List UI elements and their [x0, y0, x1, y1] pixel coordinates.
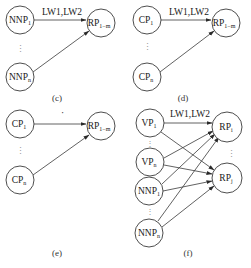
- edge-label: LW1,LW2: [170, 109, 210, 119]
- svg-text:RPi: RPi: [219, 122, 233, 133]
- edge-cpn-rp: [33, 135, 89, 175]
- ellipsis: ⋮: [146, 207, 154, 216]
- edge-nnp1-rpi: [162, 134, 215, 184]
- ellipsis: ⋮: [143, 42, 152, 52]
- node-rp-1-m: RP1−m: [212, 9, 240, 37]
- ellipsis: ⋮: [227, 149, 236, 159]
- edge-vpn-rpi: [164, 131, 213, 158]
- edge-cpn-rp: [160, 31, 214, 72]
- node-nnpn: NNPn: [6, 63, 34, 91]
- edge-label: ·: [61, 108, 64, 118]
- node-cp1: CP1: [6, 110, 34, 138]
- edge-vpn-rpj: [164, 165, 212, 174]
- panel-c: LW1,LW2 NNP1 ⋮ NNPn RP1−m (c): [6, 6, 115, 103]
- ellipsis: ⋮: [16, 44, 25, 54]
- svg-text:NNP1: NNP1: [138, 186, 160, 197]
- node-vpn: VPn: [136, 148, 164, 176]
- diagram-canvas: LW1,LW2 NNP1 ⋮ NNPn RP1−m (c) LW1,LW2 CP…: [0, 0, 251, 268]
- panel-f: LW1,LW2 VP1 ⋮ VPn NNP1 ⋮ NNPn RPi ⋮ RPj …: [135, 109, 242, 258]
- node-cpn: CPn: [6, 166, 34, 194]
- edge-nnpn-rpj: [162, 186, 214, 227]
- edge-nnp1-rpj: [163, 181, 212, 191]
- node-rpi: RPi: [212, 112, 242, 142]
- node-vp1: VP1: [136, 109, 164, 137]
- caption-c: (c): [52, 93, 62, 103]
- node-rp-1-m: RP1−m: [87, 112, 115, 140]
- ellipsis: ⋮: [16, 146, 25, 156]
- edge-label: LW1,LW2: [42, 7, 82, 17]
- svg-text:NNP1: NNP1: [9, 15, 31, 26]
- node-nnp1: NNP1: [6, 6, 34, 34]
- edge-vp1-rpj: [161, 132, 214, 170]
- node-cp1: CP1: [133, 6, 161, 34]
- ellipsis: ⋮: [146, 139, 154, 148]
- svg-text:RPj: RPj: [219, 173, 233, 184]
- svg-text:NNPn: NNPn: [9, 72, 31, 83]
- caption-e: (e): [52, 248, 62, 258]
- edge-nnpn-rp: [33, 31, 89, 72]
- caption-d: (d): [178, 93, 189, 103]
- node-rpj: RPj: [212, 163, 242, 193]
- edge-label: LW1,LW2: [169, 7, 209, 17]
- node-cpn: CPn: [133, 63, 161, 91]
- node-rp-1-m: RP1−m: [87, 9, 115, 37]
- node-nnpn: NNPn: [135, 219, 163, 247]
- svg-text:NNPn: NNPn: [138, 228, 160, 239]
- panel-d: LW1,LW2 CP1 ⋮ CPn RP1−m (d): [133, 6, 240, 103]
- panel-e: · CP1 ⋮ CPn RP1−m (e): [6, 108, 115, 258]
- caption-f: (f): [184, 248, 193, 258]
- node-nnp1: NNP1: [135, 177, 163, 205]
